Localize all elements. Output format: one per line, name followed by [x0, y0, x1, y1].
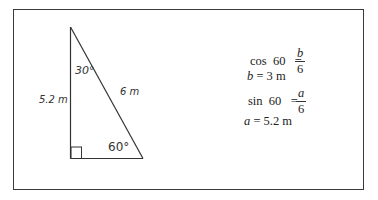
- right-angle-marker: [71, 147, 82, 159]
- bottom-angle-label: 60°: [108, 140, 129, 154]
- cos-func: cos: [250, 54, 267, 68]
- a-equals: =: [253, 114, 260, 128]
- equation-sin: sin 60 =: [248, 94, 298, 109]
- b-equals: =: [256, 69, 263, 83]
- b-var: b: [247, 69, 253, 83]
- sin-denominator: 6: [296, 103, 306, 116]
- sin-numerator: a: [296, 87, 306, 100]
- equation-a-value: a = 5.2 m: [244, 114, 292, 129]
- hypotenuse-label: 6 m: [120, 86, 139, 97]
- sin-func: sin: [248, 94, 263, 108]
- cos-fraction: b 6: [295, 47, 305, 76]
- cos-numerator: b: [295, 47, 305, 60]
- cos-arg: 60: [273, 54, 286, 68]
- sin-arg: 60: [269, 94, 282, 108]
- equation-b-value: b = 3 m: [247, 69, 286, 84]
- b-value: 3 m: [267, 69, 286, 83]
- vertical-side-label: 5.2 m: [39, 94, 68, 105]
- a-var: a: [244, 114, 250, 128]
- sin-fraction: a 6: [296, 87, 306, 116]
- cos-denominator: 6: [295, 63, 305, 76]
- top-angle-label: 30°: [75, 64, 95, 77]
- a-value: 5.2 m: [264, 114, 292, 128]
